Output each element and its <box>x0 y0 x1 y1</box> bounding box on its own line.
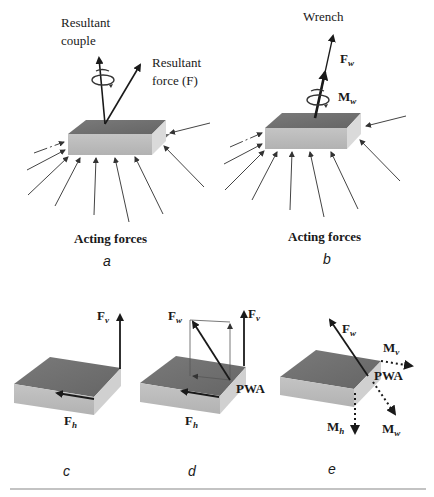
panel-label-a: a <box>103 253 111 269</box>
resultant-force-label-line1: Resultant <box>152 55 201 70</box>
box-a <box>68 118 170 155</box>
panel-label-c: c <box>63 463 70 479</box>
pwa-label-d: PWA <box>236 381 266 396</box>
resultant-couple-label-line1: Resultant <box>61 15 110 30</box>
pwa-label-e: PWA <box>374 368 404 383</box>
panel-label-d: d <box>188 463 197 479</box>
wrench-moment-label: Mw <box>338 89 357 106</box>
panel-b: Wrench Fw Mw Acting forces b <box>224 9 406 267</box>
wrench-force-label: Fw <box>340 51 355 68</box>
panel-label-b: b <box>323 251 331 267</box>
fw-label: Fw <box>342 321 357 338</box>
mw-label: Mw <box>382 421 401 438</box>
resultant-force-label-line2: force (F) <box>152 73 198 88</box>
fw-label: Fw <box>168 308 183 325</box>
slab-e <box>280 350 381 407</box>
panel-c: Fv Fh c <box>14 308 121 479</box>
resultant-force-arrow <box>105 65 140 124</box>
box-b <box>265 113 361 149</box>
panel-e: Fw Mv PWA Mh Mw e <box>280 320 412 477</box>
wrench-title: Wrench <box>303 9 344 24</box>
box-front <box>265 128 347 149</box>
acting-forces-label-b: Acting forces <box>288 229 361 244</box>
rotation-icon <box>92 70 114 89</box>
box-front <box>68 134 152 155</box>
mv-arrow <box>381 361 412 366</box>
panel-d: Fw Fv Fh PWA d <box>140 306 266 479</box>
fv-label: Fv <box>248 306 261 323</box>
mw-arrow <box>373 382 395 414</box>
fh-label: Fh <box>185 413 198 430</box>
slab-c <box>14 357 121 415</box>
box-top <box>265 113 361 128</box>
mv-label: Mv <box>383 340 400 357</box>
fv-label: Fv <box>97 308 110 325</box>
acting-forces-label-a: Acting forces <box>74 231 147 246</box>
panel-a: Resultant couple Resultant force (F) Act… <box>27 15 210 269</box>
resultant-couple-label-line2: couple <box>61 33 96 48</box>
figure-canvas: Resultant couple Resultant force (F) Act… <box>0 0 434 497</box>
panel-label-e: e <box>328 461 336 477</box>
mh-label: Mh <box>327 419 344 436</box>
resultant-couple-arrow <box>99 58 105 124</box>
fh-label: Fh <box>64 413 77 430</box>
